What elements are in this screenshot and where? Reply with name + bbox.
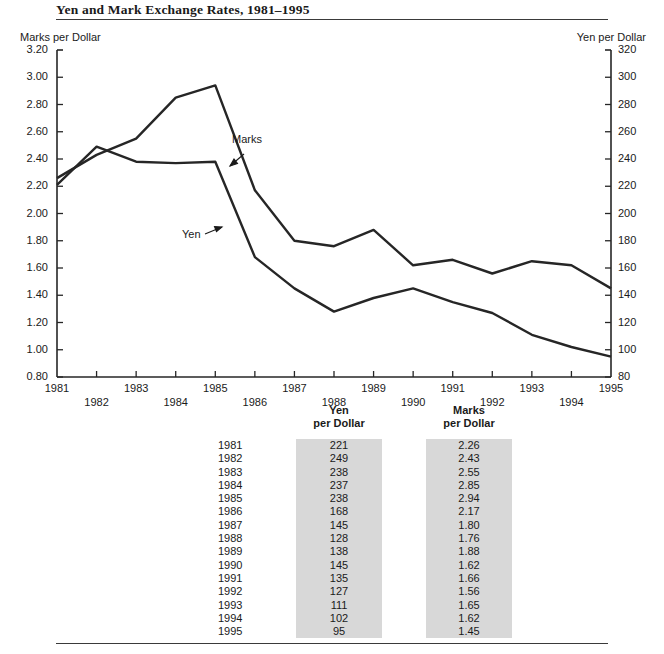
cell-marks-per-dollar: 2.94 <box>426 492 512 505</box>
right-axis-caption: Yen per Dollar <box>577 31 646 43</box>
cell-marks-per-dollar: 1.56 <box>426 585 512 598</box>
cell-yen-per-dollar: 145 <box>296 519 382 532</box>
figure-page: Yen and Mark Exchange Rates, 1981–1995 M… <box>0 0 664 654</box>
cell-yen-per-dollar: 102 <box>296 612 382 625</box>
left-tick-label: 3.20 <box>8 44 48 55</box>
right-tick-label: 200 <box>618 208 658 219</box>
left-tick-label: 2.00 <box>8 208 48 219</box>
cell-spacer <box>382 625 426 638</box>
table-row: 19921271.56 <box>218 585 512 598</box>
left-tick-label: 1.20 <box>8 317 48 328</box>
cell-spacer <box>382 572 426 585</box>
cell-marks-per-dollar: 2.85 <box>426 479 512 492</box>
yen-series-line <box>57 147 611 357</box>
table-row: 19842372.85 <box>218 479 512 492</box>
right-tick-label: 80 <box>618 371 658 382</box>
table-row: 19871451.80 <box>218 519 512 532</box>
col-header-year <box>218 404 296 439</box>
cell-yen-per-dollar: 135 <box>296 572 382 585</box>
x-tick-label: 1995 <box>589 383 633 394</box>
cell-spacer <box>382 585 426 598</box>
annotation-arrows <box>205 154 244 234</box>
cell-marks-per-dollar: 2.17 <box>426 505 512 518</box>
table-row: 19812212.26 <box>218 439 512 452</box>
left-tick-label: 2.20 <box>8 180 48 191</box>
cell-marks-per-dollar: 1.80 <box>426 519 512 532</box>
cell-spacer <box>382 492 426 505</box>
table-row: 19941021.62 <box>218 612 512 625</box>
cell-yen-per-dollar: 238 <box>296 492 382 505</box>
exchange-rate-table: Yen per Dollar Marks per Dollar 19812212… <box>218 404 512 638</box>
cell-year: 1995 <box>218 625 296 638</box>
cell-year: 1994 <box>218 612 296 625</box>
marks-series-line <box>57 85 611 288</box>
cell-year: 1992 <box>218 585 296 598</box>
col-header-yen-line2: per Dollar <box>296 417 382 430</box>
cell-marks-per-dollar: 1.45 <box>426 625 512 638</box>
left-tick-label: 1.80 <box>8 235 48 246</box>
left-tick-label: 2.40 <box>8 153 48 164</box>
table-row: 19931111.65 <box>218 599 512 612</box>
cell-year: 1993 <box>218 599 296 612</box>
left-axis-caption: Marks per Dollar <box>20 31 101 43</box>
cell-spacer <box>382 559 426 572</box>
cell-marks-per-dollar: 2.26 <box>426 439 512 452</box>
col-header-yen: Yen per Dollar <box>296 404 382 439</box>
cell-spacer <box>382 532 426 545</box>
axis-lines <box>57 50 611 377</box>
col-header-spacer <box>382 404 426 439</box>
x-tick-label: 1983 <box>114 383 158 394</box>
cell-year: 1984 <box>218 479 296 492</box>
table-row: 19852382.94 <box>218 492 512 505</box>
table-row: 19911351.66 <box>218 572 512 585</box>
right-tick-marks <box>605 77 611 377</box>
bottom-divider <box>56 643 608 644</box>
cell-yen-per-dollar: 128 <box>296 532 382 545</box>
cell-spacer <box>382 612 426 625</box>
cell-marks-per-dollar: 1.66 <box>426 572 512 585</box>
cell-spacer <box>382 505 426 518</box>
cell-year: 1985 <box>218 492 296 505</box>
cell-marks-per-dollar: 1.65 <box>426 599 512 612</box>
table-row: 19901451.62 <box>218 559 512 572</box>
right-tick-label: 220 <box>618 180 658 191</box>
right-tick-label: 180 <box>618 235 658 246</box>
cell-year: 1981 <box>218 439 296 452</box>
cell-yen-per-dollar: 237 <box>296 479 382 492</box>
title-divider <box>56 19 608 20</box>
left-tick-label: 2.80 <box>8 99 48 110</box>
right-tick-label: 100 <box>618 344 658 355</box>
table-row: 1995951.45 <box>218 625 512 638</box>
col-header-marks: Marks per Dollar <box>426 404 512 439</box>
cell-year: 1986 <box>218 505 296 518</box>
figure-title: Yen and Mark Exchange Rates, 1981–1995 <box>56 2 310 18</box>
cell-yen-per-dollar: 168 <box>296 505 382 518</box>
cell-year: 1991 <box>218 572 296 585</box>
x-tick-marks <box>97 371 572 377</box>
table-row: 19822492.43 <box>218 452 512 465</box>
cell-marks-per-dollar: 2.55 <box>426 466 512 479</box>
x-tick-label: 1987 <box>272 383 316 394</box>
left-tick-label: 2.60 <box>8 126 48 137</box>
right-tick-label: 140 <box>618 289 658 300</box>
right-tick-label: 280 <box>618 99 658 110</box>
data-table-wrap: Yen per Dollar Marks per Dollar 19812212… <box>0 404 664 634</box>
cell-yen-per-dollar: 221 <box>296 439 382 452</box>
table-row: 19881281.76 <box>218 532 512 545</box>
cell-marks-per-dollar: 2.43 <box>426 452 512 465</box>
right-tick-label: 260 <box>618 126 658 137</box>
right-tick-label: 120 <box>618 317 658 328</box>
series-label-yen: Yen <box>182 228 201 240</box>
left-tick-label: 1.60 <box>8 262 48 273</box>
cell-spacer <box>382 545 426 558</box>
col-header-marks-line1: Marks <box>426 404 512 417</box>
table-row: 19891381.88 <box>218 545 512 558</box>
cell-marks-per-dollar: 1.62 <box>426 559 512 572</box>
right-tick-label: 300 <box>618 71 658 82</box>
cell-yen-per-dollar: 127 <box>296 585 382 598</box>
x-tick-label: 1989 <box>352 383 396 394</box>
right-tick-label: 240 <box>618 153 658 164</box>
x-tick-label: 1993 <box>510 383 554 394</box>
left-tick-marks <box>57 77 63 377</box>
cell-year: 1987 <box>218 519 296 532</box>
